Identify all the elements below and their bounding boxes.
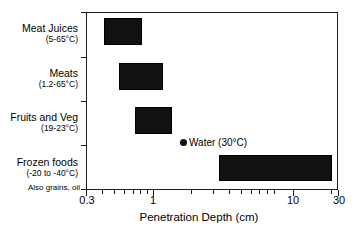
x-tick-minor-0.6	[124, 190, 125, 194]
x-axis-title-text: Penetration Depth (cm)	[140, 211, 259, 224]
water-marker-dot	[180, 139, 187, 146]
y-tick-3	[81, 145, 87, 146]
x-axis-title: Penetration Depth (cm)	[0, 211, 360, 224]
category-label-meat-juices-sub: (5-65°C)	[0, 34, 78, 44]
category-label-fruits-and-veg: Fruits and Veg (19-23°C)	[0, 111, 78, 133]
category-label-meats-sub: (1.2-65°C)	[0, 79, 78, 89]
y-tick-2	[81, 101, 87, 102]
category-label-frozen-foods: Frozen foods (-20 to -40°C)	[0, 156, 78, 178]
x-tick-minor-0.4	[102, 190, 103, 194]
bar-meats	[119, 63, 163, 90]
footnote-also-grains-oil: Also grains, oil	[0, 183, 80, 192]
x-tick-minor-0.9	[147, 190, 148, 194]
category-label-meats-main: Meats	[0, 67, 78, 79]
x-tick-minor-0.8	[140, 190, 141, 194]
bar-meat-juices	[104, 18, 142, 45]
penetration-depth-chart: Water (30°C) Meat Juices (5-65°C) Meats …	[0, 0, 360, 233]
x-tick-minor-5	[241, 190, 242, 194]
water-marker-label: Water (30°C)	[189, 138, 247, 148]
category-label-frozen-foods-main: Frozen foods	[0, 156, 78, 168]
x-tick-minor-4	[229, 190, 230, 194]
category-label-meats: Meats (1.2-65°C)	[0, 67, 78, 89]
x-tick-minor-3	[213, 190, 214, 194]
x-tick-minor-8	[267, 190, 268, 194]
x-tick-minor-7	[259, 190, 260, 194]
x-tick-minor-9	[274, 190, 275, 194]
x-tick-minor-0.5	[114, 190, 115, 194]
x-tick-minor-0.7	[133, 190, 134, 194]
y-tick-1	[81, 57, 87, 58]
x-axis-label-0.3: 0.3	[79, 194, 94, 206]
x-tick-minor-6	[251, 190, 252, 194]
category-label-meat-juices-main: Meat Juices	[0, 22, 78, 34]
bar-fruits-and-veg	[135, 107, 172, 134]
x-tick-minor-20	[331, 190, 332, 194]
x-axis-label-1: 1	[150, 194, 156, 206]
category-label-fruits-and-veg-main: Fruits and Veg	[0, 111, 78, 123]
x-tick-minor-2	[191, 190, 192, 194]
category-label-meat-juices: Meat Juices (5-65°C)	[0, 22, 78, 44]
y-tick-0	[81, 12, 87, 13]
category-label-fruits-and-veg-sub: (19-23°C)	[0, 123, 78, 133]
category-label-frozen-foods-sub: (-20 to -40°C)	[0, 168, 78, 178]
x-axis-label-30: 30	[333, 194, 345, 206]
x-axis-label-10: 10	[287, 194, 299, 206]
bar-frozen-foods	[219, 155, 332, 181]
